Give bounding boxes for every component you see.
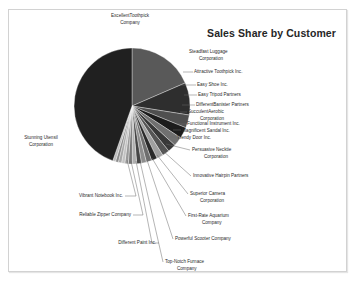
label-line-2: Corporation [190, 198, 280, 205]
leader-line-vibrant-notebook [125, 160, 136, 196]
label-line-2: Company [165, 266, 255, 273]
label-line-2: Corporation [10, 142, 72, 149]
label-line-2: Corporation [192, 154, 282, 161]
pie-label-stunning-utensil-corporation: Stunning Utensil Corporation [10, 135, 72, 148]
pie-label-superior-camera-corporation: Superior Camera Corporation [190, 191, 280, 204]
pie-label-reliable-zipper-company: Reliable Zipper Company [43, 212, 131, 219]
pie-label-excellent-toothpick-company: ExcellentToothpick Company [88, 13, 172, 26]
leader-line-innovative-hairpin [162, 150, 191, 176]
pie-label-easy-shoe-inc: Easy Shoe Inc. [197, 82, 277, 89]
leader-line-top-notch-furnace [140, 161, 163, 262]
label-line-2: Corporation [189, 56, 284, 63]
pie-label-steadfast-luggage-corporation: Steadfast Luggage Corporation [189, 49, 284, 62]
pie-label-trendy-door-inc: Trendy Door Inc. [177, 135, 257, 142]
pie-label-powerful-scooter-company: Powerful Scooter Company [175, 236, 280, 243]
pie-label-attractive-toothpick-inc: Attractive Toothpick Inc. [194, 69, 294, 76]
pie-label-easy-tripod-partners: Easy Tripod Partners [198, 92, 288, 99]
pie-label-first-rate-aquarium-company: First-Rate Aquarium Company [188, 213, 283, 226]
label-line-2: Company [88, 20, 172, 27]
pie-label-functional-instrument-inc: Functional Instrument Inc. [187, 121, 287, 128]
pie-label-different-paint-inc: Different Paint Inc. [76, 240, 156, 247]
leader-line-different-paint [136, 161, 159, 243]
pie-label-different-banister-partners: DifferentBanister Partners [196, 102, 301, 109]
pie-label-persuasive-necktie-corporation: Persuasive Necktie Corporation [192, 147, 282, 160]
pie-slice-group[interactable] [74, 48, 190, 164]
pie-label-magnificent-sandal-inc: Magnificent Sandal Inc. [182, 128, 277, 135]
pie-label-innovative-hairpin-partners: Innovative Hairpin Partners [193, 173, 298, 180]
pie-label-vibrant-notebook-inc: Vibrant Notebook Inc. [45, 193, 123, 200]
pie-label-top-notch-furnace-company: Top-Notch Furnace Company [165, 259, 255, 272]
label-line-2: Company [188, 220, 283, 227]
